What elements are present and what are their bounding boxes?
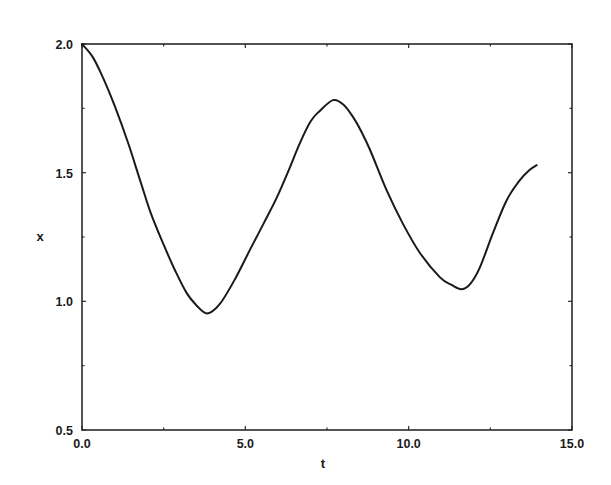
series-line	[82, 44, 537, 313]
x-tick-label: 10.0	[396, 437, 420, 451]
x-tick-label: 5.0	[237, 437, 254, 451]
y-tick-label: 1.0	[56, 295, 73, 309]
x-tick-label: 0.0	[73, 437, 90, 451]
plot-border	[82, 44, 572, 430]
tick-labels: 0.05.010.015.00.51.01.52.0	[56, 38, 585, 451]
plot-frame	[82, 44, 572, 430]
x-axis-label: t	[321, 456, 326, 471]
line-chart: 0.05.010.015.00.51.01.52.0 t x	[0, 0, 611, 485]
y-tick-label: 0.5	[56, 424, 73, 438]
y-tick-label: 2.0	[56, 38, 73, 52]
y-tick-label: 1.5	[56, 167, 73, 181]
y-axis-label: x	[36, 229, 44, 244]
x-tick-label: 15.0	[560, 437, 584, 451]
axis-ticks	[82, 44, 572, 430]
